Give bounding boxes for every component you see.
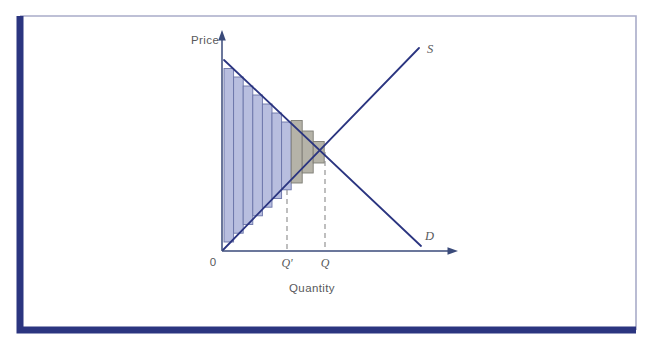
quantity-axis-label: Quantity: [289, 282, 335, 294]
surplus-bar: [243, 86, 253, 225]
surplus-bar: [262, 104, 272, 207]
price-axis-label: Price: [191, 34, 219, 46]
q-tick-label: Q: [321, 256, 330, 270]
supply-demand-figure: Price Quantity 0 Q' Q S D: [0, 0, 649, 344]
surplus-bar: [253, 95, 263, 216]
demand-curve-label: D: [424, 229, 434, 243]
supply-curve-label: S: [427, 42, 434, 56]
surplus-bar: [272, 113, 282, 199]
origin-label: 0: [210, 256, 216, 268]
q-prime-tick-label: Q': [281, 256, 293, 270]
figure-root: Price Quantity 0 Q' Q S D: [0, 0, 649, 344]
surplus-bar: [282, 122, 292, 190]
surplus-bar: [224, 69, 234, 243]
surplus-bar: [234, 77, 244, 233]
